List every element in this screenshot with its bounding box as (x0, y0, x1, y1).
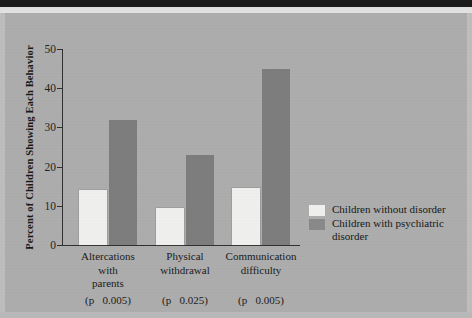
y-tick-20 (57, 167, 62, 168)
scan-edge-bottom (0, 312, 472, 318)
bar-with-disorder-group-3 (262, 69, 290, 245)
legend-label-with-disorder: Children with psychiatric disorder (332, 217, 444, 242)
legend-item-children-with-psychiatric-disorder: Children with psychiatric disorder (309, 217, 459, 242)
y-axis-line (62, 49, 63, 246)
legend-label-with-disorder-line1: Children with psychiatric (332, 217, 444, 230)
y-tick-label-50: 50 (32, 43, 56, 55)
y-tick-10 (57, 206, 62, 207)
y-axis-title-text: Percent of Children Showing Each Behavio… (24, 45, 35, 249)
legend-swatch-dark (309, 219, 325, 230)
y-tick-50 (57, 49, 62, 50)
scan-artifact-top-band (0, 0, 472, 7)
bar-without-disorder-group-3 (232, 188, 260, 245)
y-tick-40 (57, 88, 62, 89)
legend-label-with-disorder-line2: disorder (332, 230, 444, 243)
chart-legend: Children without disorder Children with … (309, 203, 459, 243)
x-category-pvalue-3: (p 0.005) (201, 294, 321, 308)
bar-with-disorder-group-2 (186, 155, 214, 245)
scan-edge-right (467, 13, 472, 318)
plot-area: 01020304050 (62, 49, 300, 246)
y-tick-label-40: 40 (32, 82, 56, 94)
y-tick-0 (57, 245, 62, 246)
x-category-label-3: Communicationdifficulty(p 0.005) (201, 250, 321, 307)
x-axis-line (62, 245, 300, 246)
y-axis-title: Percent of Children Showing Each Behavio… (21, 49, 37, 246)
legend-swatch-light (309, 205, 325, 216)
chart-page: Percent of Children Showing Each Behavio… (0, 0, 472, 318)
bar-without-disorder-group-2 (156, 208, 184, 245)
x-category-label-3-line-1: Communication (201, 250, 321, 264)
y-tick-label-10: 10 (32, 200, 56, 212)
bar-with-disorder-group-1 (109, 120, 137, 245)
y-tick-30 (57, 127, 62, 128)
legend-item-children-without-disorder: Children without disorder (309, 203, 459, 216)
legend-label-without-disorder: Children without disorder (332, 203, 446, 216)
y-tick-label-30: 30 (32, 121, 56, 133)
bar-without-disorder-group-1 (79, 190, 107, 245)
x-category-label-3-line-2: difficulty (201, 264, 321, 278)
y-tick-label-20: 20 (32, 161, 56, 173)
